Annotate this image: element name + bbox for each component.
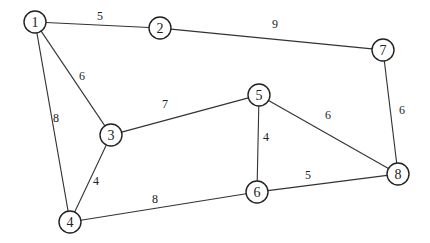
node-7: 7 [372,39,394,61]
node-2: 2 [149,17,171,39]
node-4: 4 [59,211,81,233]
edge-6-8 [268,175,387,190]
edge-2-7 [171,29,372,49]
node-label: 6 [254,185,261,200]
node-3: 3 [100,124,122,146]
edge-weight-1-3: 6 [79,69,85,83]
edge-4-6 [81,194,246,221]
edge-weight-3-5: 7 [162,97,168,111]
edge-7-8 [384,61,396,163]
edge-weight-2-7: 9 [272,17,278,31]
edge-3-4 [75,145,107,212]
edge-3-5 [122,98,249,132]
node-label: 7 [380,43,387,58]
edge-weight-1-4: 8 [53,111,59,125]
node-5: 5 [248,84,270,106]
node-label: 2 [157,21,164,36]
edges-layer [37,23,397,221]
node-6: 6 [246,181,268,203]
edge-1-2 [46,23,149,28]
edge-weights-layer: 59687446685 [53,9,405,206]
node-label: 1 [32,15,39,30]
edge-weight-4-6: 8 [152,192,158,206]
node-label: 5 [256,88,263,103]
node-label: 4 [67,215,74,230]
node-label: 8 [395,167,402,182]
edge-weight-3-4: 4 [93,174,99,188]
node-1: 1 [24,11,46,33]
node-label: 3 [108,128,115,143]
node-8: 8 [387,163,409,185]
edge-weight-6-8: 5 [305,168,311,182]
edge-weight-1-2: 5 [97,9,103,23]
edge-weight-7-8: 6 [399,103,405,117]
nodes-layer: 12345678 [24,11,409,233]
graph-diagram: 59687446685 12345678 [0,0,430,243]
edge-weight-5-6: 4 [263,130,269,144]
edge-weight-5-8: 6 [325,108,331,122]
edge-5-6 [257,106,259,181]
